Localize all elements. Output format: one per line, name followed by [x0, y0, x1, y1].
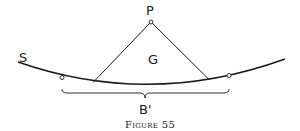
label-p: P	[146, 3, 154, 18]
figure-55: S P G B' Figure 55	[0, 0, 300, 131]
point-p-marker	[149, 20, 153, 24]
right-endpoint-marker	[227, 74, 231, 78]
label-s: S	[19, 50, 27, 65]
label-g: G	[148, 52, 158, 67]
label-b-prime: B'	[139, 102, 152, 117]
figure-caption: Figure 55	[125, 119, 175, 130]
triangle-right-side	[151, 22, 209, 80]
triangle-left-side	[93, 22, 151, 83]
diagram-canvas: S P G B' Figure 55	[0, 0, 300, 131]
brace-b-prime	[62, 89, 229, 98]
left-endpoint-marker	[60, 76, 64, 80]
